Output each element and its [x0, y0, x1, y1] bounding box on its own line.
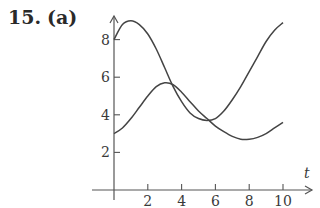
x-tick-label: 10: [274, 193, 292, 208]
curve-2-line: [114, 83, 283, 140]
y-tick-label: 8: [101, 32, 110, 48]
y-tick-label: 4: [101, 107, 110, 123]
x-tick-label: 2: [143, 193, 152, 208]
curve-1-line: [114, 21, 283, 121]
x-tick-label: 4: [177, 193, 186, 208]
series-group: [114, 21, 283, 140]
x-tick-label: 8: [245, 193, 254, 208]
y-tick-label: 2: [101, 144, 110, 160]
line-chart: 2468102468t: [0, 0, 320, 208]
x-tick-label: 6: [211, 193, 220, 208]
axes: 2468102468t: [92, 16, 312, 208]
y-tick-label: 6: [101, 69, 110, 85]
x-axis-label: t: [304, 165, 310, 181]
